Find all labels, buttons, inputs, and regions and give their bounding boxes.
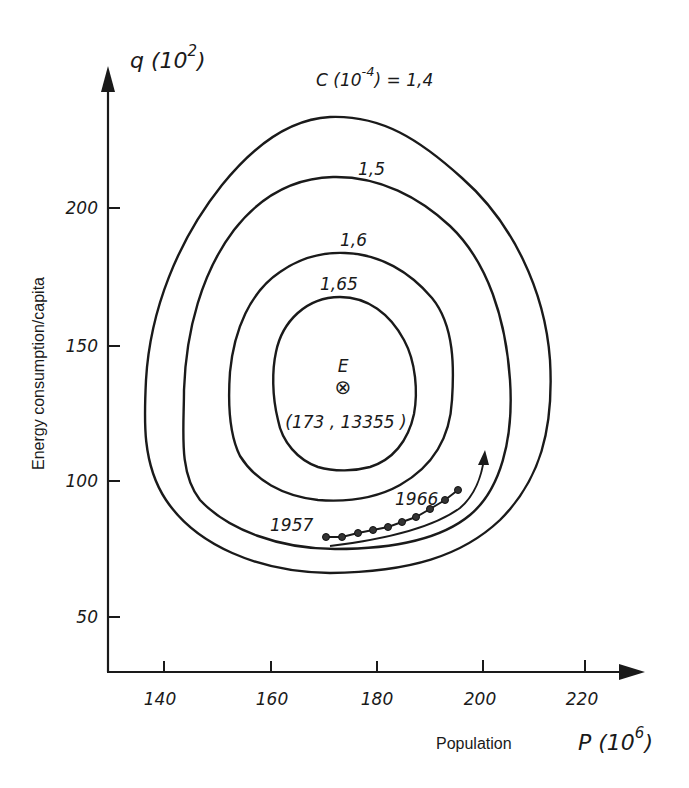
contour-label-1-4: C (10-4) = 1,4 — [316, 64, 433, 90]
x-tick-label: 220 — [566, 689, 598, 709]
x-tick-label: 180 — [361, 689, 393, 709]
x-tick-label: 140 — [144, 689, 176, 709]
trajectory-point — [455, 487, 462, 494]
optimum-coords: (173 , 13355 ) — [285, 412, 406, 432]
y-tick-label: 200 — [66, 198, 98, 218]
y-axis-title: Energy consumption/capita — [30, 277, 47, 470]
optimum-point: E ⊗ (173 , 13355 ) — [285, 356, 406, 432]
y-tick-label: 50 — [76, 607, 98, 627]
x-tick-label: 200 — [464, 689, 496, 709]
y-tick-label: 150 — [66, 336, 98, 356]
contour-label-1-65: 1,65 — [320, 274, 358, 294]
x-axis-title: Population — [436, 735, 512, 752]
trajectory-end-label: 1966 — [395, 489, 438, 509]
optimum-marker-icon: ⊗ — [335, 375, 352, 399]
trajectory-point — [355, 530, 362, 537]
contour-label-1-6: 1,6 — [340, 230, 367, 250]
trajectory-point — [442, 497, 449, 504]
x-axis-arrow-icon — [619, 664, 645, 680]
y-axis-arrow-icon — [101, 66, 115, 92]
optimum-label: E — [338, 356, 349, 376]
y-tick-label: 100 — [66, 471, 98, 491]
trajectory-point — [413, 514, 420, 521]
contours — [145, 117, 551, 573]
trajectory-point — [370, 527, 377, 534]
trajectory-start-label: 1957 — [270, 515, 313, 535]
x-tick-label: 160 — [256, 689, 288, 709]
y-axis-symbol: q (102) — [130, 42, 206, 73]
trajectory-point — [339, 534, 346, 541]
trajectory-point — [385, 524, 392, 531]
contour-chart: 200 150 100 50 q (102) Energy consumptio… — [0, 0, 689, 788]
trajectory-point — [323, 534, 330, 541]
x-axis: 140 160 180 200 220 Population P (106) — [107, 660, 653, 755]
trajectory-point — [399, 519, 406, 526]
contour-label-1-5: 1,5 — [358, 159, 385, 179]
trajectory-arrow-icon — [478, 450, 489, 465]
x-axis-symbol: P (106) — [578, 724, 653, 755]
y-axis: 200 150 100 50 q (102) Energy consumptio… — [30, 42, 206, 672]
